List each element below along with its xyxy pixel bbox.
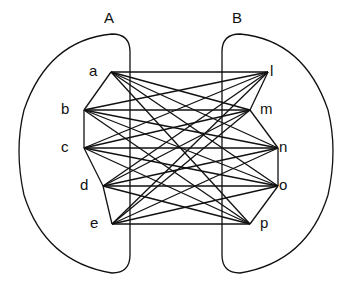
graph-canvas [0, 0, 346, 286]
node-label-n: n [279, 139, 287, 154]
node-label-l: l [270, 63, 273, 78]
region-label-a: A [104, 10, 114, 25]
node-label-c: c [61, 139, 69, 154]
edge-e-o [112, 186, 278, 224]
node-label-d: d [80, 177, 88, 192]
edges-group [84, 72, 278, 224]
edge-b-n [84, 110, 278, 148]
node-label-m: m [260, 101, 273, 116]
node-label-p: p [260, 215, 268, 230]
edge-b-p [84, 110, 250, 224]
edge-d-e [103, 186, 112, 224]
node-label-e: e [90, 215, 98, 230]
node-label-b: b [61, 101, 69, 116]
node-label-a: a [89, 63, 97, 78]
region-label-b: B [232, 10, 242, 25]
node-label-o: o [279, 177, 287, 192]
